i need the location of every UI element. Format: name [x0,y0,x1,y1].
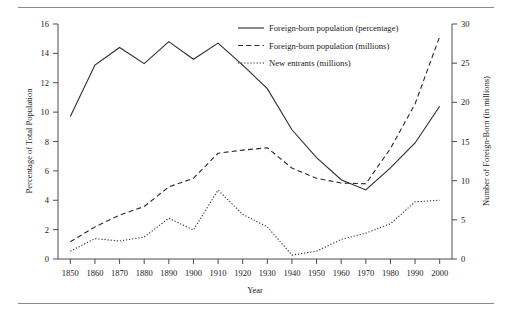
legend-label-1: Foreign-born population (percentage) [269,23,398,33]
series-layer [70,37,439,256]
left-tick-label: 0 [45,254,49,264]
x-tick-label: 1870 [111,268,128,278]
x-tick-label: 2000 [431,268,448,278]
series-line-3 [70,190,439,255]
left-tick-label: 6 [45,166,49,176]
left-axis: 0246810121416 Percentage of Total Popula… [24,19,58,264]
line-chart-svg: 0246810121416 Percentage of Total Popula… [0,0,512,318]
x-tick-label: 1960 [333,268,350,278]
left-tick-label: 4 [45,195,50,205]
right-axis: 051015202530 Number of Foreign-Born (in … [452,19,491,264]
right-tick-label: 30 [461,19,470,29]
x-tick-label: 1980 [382,268,399,278]
x-tick-label: 1990 [407,268,424,278]
series-line-1 [70,42,439,190]
x-tick-label: 1930 [259,268,276,278]
chart-figure: 0246810121416 Percentage of Total Popula… [0,0,512,318]
x-axis: 1850186018701880189019001910192019301940… [58,259,452,295]
left-tick-label: 10 [41,107,50,117]
left-tick-label: 8 [45,137,49,147]
x-tick-label: 1860 [86,268,103,278]
right-tick-label: 20 [461,97,470,107]
x-tick-label: 1920 [234,268,251,278]
x-tick-label: 1910 [210,268,227,278]
left-axis-ticks: 0246810121416 [41,19,59,264]
right-tick-label: 0 [461,254,465,264]
right-tick-label: 15 [461,137,470,147]
left-tick-label: 16 [41,19,50,29]
right-tick-label: 5 [461,215,465,225]
right-axis-title: Number of Foreign-Born (in millions) [481,76,491,206]
x-axis-title: Year [247,285,263,295]
x-tick-label: 1890 [160,268,177,278]
left-tick-label: 12 [41,78,50,88]
series-line-2 [70,37,439,242]
x-tick-label: 1880 [136,268,153,278]
right-tick-label: 10 [461,176,470,186]
left-tick-label: 14 [41,48,50,58]
x-tick-label: 1850 [62,268,79,278]
x-tick-label: 1950 [308,268,325,278]
right-tick-label: 25 [461,58,470,68]
right-axis-ticks: 051015202530 [452,19,470,264]
legend-label-2: Foreign-born population (millions) [269,41,389,51]
left-tick-label: 2 [45,225,49,235]
legend-label-3: New entrants (millions) [269,58,351,68]
chart-legend: Foreign-born population (percentage)Fore… [238,23,398,68]
left-axis-title: Percentage of Total Population [24,88,34,194]
x-tick-label: 1940 [283,268,300,278]
x-tick-label: 1900 [185,268,202,278]
x-axis-ticks: 1850186018701880189019001910192019301940… [62,259,448,278]
x-tick-label: 1970 [357,268,374,278]
